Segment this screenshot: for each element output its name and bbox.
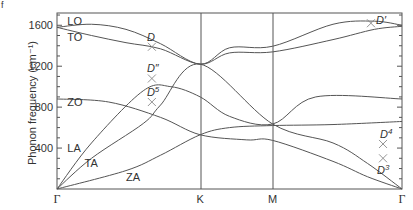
y-tick-label: 1600 [29,19,53,31]
y-tick-label: 1200 [29,60,53,72]
x-axis-labels: ΓKMΓ [54,192,406,206]
raman-mode-label: D [147,31,155,43]
dispersion-curves [57,21,402,189]
branch-la-curve [57,85,402,189]
branch-label-to: TO [67,31,83,43]
raman-mode-label: D″ [147,62,160,74]
branch-label-ta: TA [85,157,99,169]
x-point-label: M [268,193,277,205]
raman-mode-markers: DD″D5D′D4D3 [147,14,393,176]
y-tick-label: 400 [35,142,53,154]
panel-label: f [1,0,4,10]
branch-label-lo: LO [67,15,82,27]
x-point-label: Γ [399,192,406,206]
branch-za-curve [57,121,402,189]
branch-label-za: ZA [126,171,141,183]
branch-label-la: LA [67,142,81,154]
x-point-label: Γ [54,192,61,206]
raman-mode-label: D3 [377,163,390,176]
branch-to-curve [57,26,402,64]
y-tick-label: 800 [35,101,53,113]
raman-mode-label: D4 [380,127,393,140]
branch-lo-curve [57,21,402,64]
raman-mode-label: D′ [376,14,387,26]
phonon-dispersion-chart: f Phonon frequency (cm⁻¹) 40080012001600… [0,0,413,210]
x-point-label: K [197,193,205,205]
branch-label-zo: ZO [67,96,83,108]
branch-labels: LOTOZOLATAZA [67,15,140,183]
branch-ta-curve [57,64,402,189]
raman-mode-label: D5 [147,85,160,98]
